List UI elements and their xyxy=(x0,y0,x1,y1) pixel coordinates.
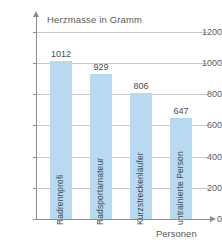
x-axis-line xyxy=(36,219,212,220)
y-tick-mark-600 xyxy=(33,125,37,126)
chart-title: Herzmasse in Gramm xyxy=(47,14,142,25)
y-tick-label-200: 200 xyxy=(192,184,222,193)
plot-area: 1012 929 806 647 Radrennprofi Radsportam… xyxy=(36,32,212,219)
y-tick-mark-800 xyxy=(33,94,37,95)
bar-chart: Herzmasse in Gramm 1012 929 806 647 Radr… xyxy=(0,0,222,252)
bar-label-radrennprofi: Radrennprofi xyxy=(55,175,65,225)
bar-value-radrennprofi: 1012 xyxy=(41,50,81,59)
y-tick-label-400: 400 xyxy=(192,153,222,162)
y-axis-line xyxy=(36,16,37,220)
y-tick-label-1000: 1000 xyxy=(192,59,222,68)
y-axis-arrow-icon xyxy=(33,11,39,17)
y-tick-mark-200 xyxy=(33,188,37,189)
y-tick-mark-1200 xyxy=(33,32,37,33)
bar-value-kurzstreckenlaeufer: 806 xyxy=(121,82,161,91)
bar-label-untrainierte-person: untrainierte Person xyxy=(175,151,185,225)
y-tick-mark-400 xyxy=(33,157,37,158)
y-tick-label-800: 800 xyxy=(192,90,222,99)
y-tick-mark-1000 xyxy=(33,63,37,64)
bar-label-kurzstreckenlaeufer: Kurzstreckenläufer xyxy=(135,152,145,225)
y-tick-label-600: 600 xyxy=(192,121,222,130)
bar-value-radsportamateur: 929 xyxy=(81,63,121,72)
bar-label-radsportamateur: Radsportamateur xyxy=(95,158,105,225)
x-axis-title: Personen xyxy=(156,228,197,239)
x-axis-arrow-icon xyxy=(210,216,216,222)
gridline-1200 xyxy=(36,32,208,33)
y-tick-label-1200: 1200 xyxy=(192,28,222,37)
bar-value-untrainierte-person: 647 xyxy=(161,107,201,116)
